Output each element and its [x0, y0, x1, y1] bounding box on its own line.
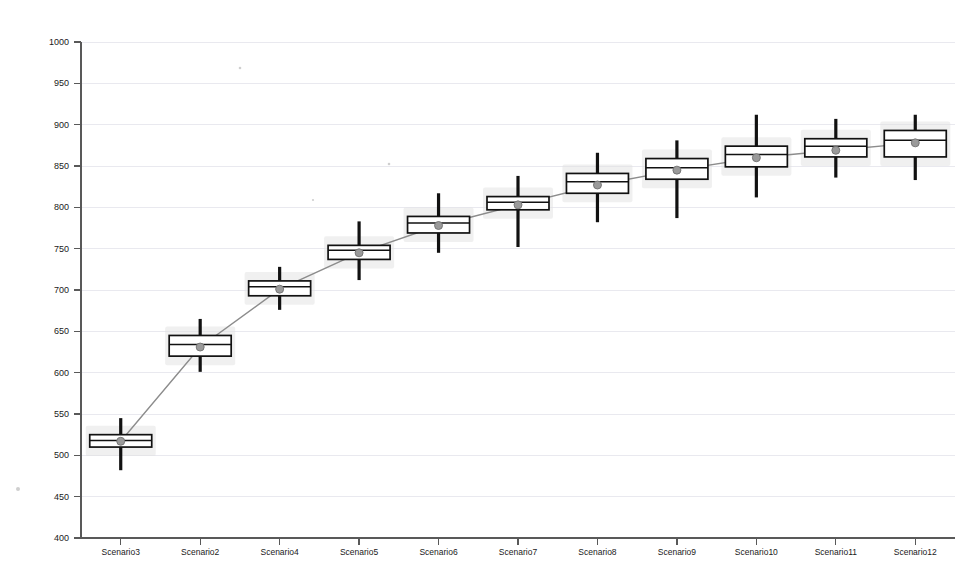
mean-marker-Scenario10: [752, 154, 760, 162]
mean-marker-Scenario9: [673, 166, 681, 174]
mean-marker-Scenario2: [196, 343, 204, 351]
mean-marker-Scenario11: [832, 146, 840, 154]
box-plot-Scenario5: [328, 221, 390, 280]
y-axis-tick-label-550: 550: [54, 409, 69, 419]
scan-speck-1: [388, 163, 391, 166]
y-axis-tick-label-600: 600: [54, 368, 69, 378]
x-axis-tick-label-Scenario3: Scenario3: [102, 547, 141, 557]
x-axis-tick-label-Scenario2: Scenario2: [181, 547, 220, 557]
y-axis-tick-label-500: 500: [54, 450, 69, 460]
x-axis-tick-label-Scenario12: Scenario12: [894, 547, 937, 557]
x-axis: Scenario3Scenario2Scenario4Scenario5Scen…: [81, 538, 955, 557]
scan-speck-2: [16, 487, 20, 491]
x-axis-tick-label-Scenario4: Scenario4: [260, 547, 299, 557]
chart-canvas: 4004505005506006507007508008509009501000…: [0, 0, 967, 585]
y-axis-tick-label-850: 850: [54, 161, 69, 171]
box-halos: [86, 121, 951, 456]
image-specks: [16, 67, 390, 491]
x-axis-tick-label-Scenario11: Scenario11: [815, 547, 858, 557]
box-plot-chart: 4004505005506006507007508008509009501000…: [0, 0, 967, 585]
y-axis-tick-label-1000: 1000: [49, 37, 69, 47]
scan-speck-3: [312, 199, 314, 201]
y-axis-tick-label-700: 700: [54, 285, 69, 295]
y-axis: 4004505005506006507007508008509009501000: [49, 37, 81, 543]
box-plot-Scenario11: [805, 119, 867, 178]
x-axis-tick-label-Scenario5: Scenario5: [340, 547, 379, 557]
x-axis-tick-label-Scenario7: Scenario7: [499, 547, 538, 557]
mean-marker-Scenario3: [117, 437, 125, 445]
box-plot-Scenario8: [566, 153, 628, 222]
y-axis-tick-label-950: 950: [54, 78, 69, 88]
scan-speck-0: [239, 67, 242, 70]
x-axis-tick-label-Scenario6: Scenario6: [419, 547, 458, 557]
y-axis-tick-label-400: 400: [54, 533, 69, 543]
mean-marker-Scenario7: [514, 201, 522, 209]
y-axis-tick-label-900: 900: [54, 120, 69, 130]
gridlines: [81, 42, 955, 497]
mean-marker-Scenario8: [593, 181, 601, 189]
mean-marker-Scenario6: [435, 222, 443, 230]
y-axis-tick-label-650: 650: [54, 326, 69, 336]
mean-marker-Scenario5: [355, 249, 363, 257]
mean-marker-Scenario4: [276, 285, 284, 293]
y-axis-tick-label-750: 750: [54, 244, 69, 254]
box-plot-Scenario10: [725, 115, 787, 198]
x-axis-tick-label-Scenario9: Scenario9: [658, 547, 697, 557]
x-axis-tick-label-Scenario10: Scenario10: [735, 547, 778, 557]
box-plot-Scenario6: [408, 193, 470, 253]
y-axis-tick-label-800: 800: [54, 202, 69, 212]
x-axis-tick-label-Scenario8: Scenario8: [578, 547, 617, 557]
mean-marker-Scenario12: [911, 139, 919, 147]
y-axis-tick-label-450: 450: [54, 492, 69, 502]
box-plot-series: [90, 115, 947, 470]
